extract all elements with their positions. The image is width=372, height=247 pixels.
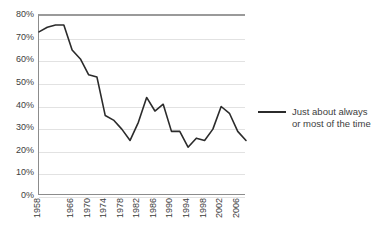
y-tick-label: 30% <box>0 123 34 132</box>
series-trust-line <box>39 16 246 197</box>
x-tick-label: 2006 <box>232 198 241 218</box>
y-tick-label: 50% <box>0 78 34 87</box>
x-tick-label: 1970 <box>83 198 92 218</box>
x-tick-label: 1974 <box>99 198 108 218</box>
x-tick-label: 1994 <box>182 198 191 218</box>
legend-line-swatch <box>258 106 286 117</box>
y-tick-label: 70% <box>0 33 34 42</box>
legend-label: Just about always or most of the time <box>292 106 371 130</box>
x-tick-label: 1986 <box>149 198 158 218</box>
y-tick-label: 0% <box>0 191 34 200</box>
x-tick-label: 1982 <box>132 198 141 218</box>
x-tick-label: 1966 <box>66 198 75 218</box>
y-tick-label: 40% <box>0 101 34 110</box>
x-tick-label: 2002 <box>215 198 224 218</box>
x-tick-label: 1998 <box>199 198 208 218</box>
x-tick-label: 1958 <box>33 198 42 218</box>
series-polyline <box>39 25 246 147</box>
line-chart: 0%10%20%30%40%50%60%70%80% 1958196619701… <box>0 0 372 247</box>
legend: Just about always or most of the time <box>258 106 371 130</box>
x-axis: 1958196619701974197819821986199019941998… <box>38 196 245 244</box>
y-tick-label: 60% <box>0 55 34 64</box>
y-tick-label: 80% <box>0 10 34 19</box>
y-tick-label: 20% <box>0 146 34 155</box>
y-axis: 0%10%20%30%40%50%60%70%80% <box>0 14 34 195</box>
y-tick-label: 10% <box>0 168 34 177</box>
plot-area <box>38 14 245 195</box>
x-tick-label: 1990 <box>165 198 174 218</box>
x-tick-label: 1978 <box>116 198 125 218</box>
